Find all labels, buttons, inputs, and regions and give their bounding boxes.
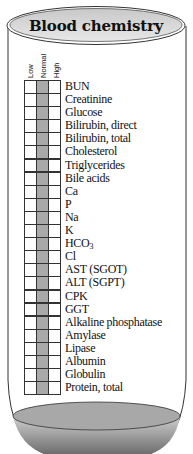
checkbox-low[interactable] [24,159,37,173]
checkbox-high[interactable] [48,276,61,290]
checkbox-low[interactable] [24,93,37,107]
checkbox-high[interactable] [48,237,61,251]
checkbox-low[interactable] [24,329,37,343]
test-row [24,198,63,211]
checkbox-normal[interactable] [36,329,49,343]
checkbox-low[interactable] [24,237,37,251]
checkbox-high[interactable] [48,106,61,120]
checkbox-high[interactable] [48,303,61,317]
test-labels: BUNCreatinineGlucoseBilirubin, directBil… [65,80,162,394]
result-grid [24,80,63,394]
checkbox-high[interactable] [48,224,61,238]
checkbox-high[interactable] [48,250,61,264]
checkbox-normal[interactable] [36,237,49,251]
checkbox-high[interactable] [48,93,61,107]
test-row [24,159,63,172]
checkbox-low[interactable] [24,342,37,356]
checkbox-normal[interactable] [36,185,49,199]
checkbox-low[interactable] [24,132,37,146]
checkbox-high[interactable] [48,80,61,94]
checkbox-high[interactable] [48,172,61,186]
checkbox-high[interactable] [48,355,61,369]
checkbox-high[interactable] [48,329,61,343]
checkbox-low[interactable] [24,106,37,120]
checkbox-high[interactable] [48,342,61,356]
checkbox-high[interactable] [48,145,61,159]
checkbox-high[interactable] [48,159,61,173]
test-name: Amylase [65,328,106,342]
checkbox-normal[interactable] [36,106,49,120]
checkbox-low[interactable] [24,276,37,290]
checkbox-normal[interactable] [36,342,49,356]
checkbox-high[interactable] [48,211,61,225]
test-label: P [65,198,162,211]
test-name: Triglycerides [65,158,125,172]
checkbox-low[interactable] [24,145,37,159]
checkbox-high[interactable] [48,368,61,382]
test-label: HCO3 [65,237,162,250]
test-row [24,237,63,250]
checkbox-low[interactable] [24,381,37,395]
checkbox-low[interactable] [24,263,37,277]
checkbox-high[interactable] [48,381,61,395]
test-name: Albumin [65,354,106,368]
checkbox-normal[interactable] [36,381,49,395]
checkbox-high[interactable] [48,290,61,304]
checkbox-high[interactable] [48,132,61,146]
column-header-high: High [50,48,63,78]
checkbox-low[interactable] [24,224,37,238]
checkbox-low[interactable] [24,80,37,94]
checkbox-low[interactable] [24,303,37,317]
checkbox-normal[interactable] [36,172,49,186]
checkbox-low[interactable] [24,211,37,225]
checkbox-low[interactable] [24,198,37,212]
checkbox-low[interactable] [24,172,37,186]
test-row [24,342,63,355]
checkbox-normal[interactable] [36,303,49,317]
column-headers: Low Normal High [24,48,63,80]
checkbox-normal[interactable] [36,159,49,173]
checkbox-normal[interactable] [36,93,49,107]
test-name: Cholesterol [65,144,117,158]
checkbox-normal[interactable] [36,198,49,212]
checkbox-normal[interactable] [36,145,49,159]
test-name: Creatinine [65,92,112,106]
checkbox-high[interactable] [48,119,61,133]
checkbox-normal[interactable] [36,250,49,264]
checkbox-high[interactable] [48,263,61,277]
checkbox-normal[interactable] [36,276,49,290]
checkbox-normal[interactable] [36,80,49,94]
checkbox-normal[interactable] [36,119,49,133]
test-name: Cl [65,249,76,263]
checkbox-low[interactable] [24,355,37,369]
test-row [24,250,63,263]
checkbox-high[interactable] [48,198,61,212]
checkbox-high[interactable] [48,185,61,199]
checkbox-normal[interactable] [36,355,49,369]
test-label: Protein, total [65,381,162,394]
checkbox-low[interactable] [24,290,37,304]
checkbox-low[interactable] [24,250,37,264]
checkbox-normal[interactable] [36,368,49,382]
test-row [24,368,63,381]
test-name: HCO [65,236,89,250]
checkbox-normal[interactable] [36,263,49,277]
checkbox-normal[interactable] [36,224,49,238]
checkbox-normal[interactable] [36,132,49,146]
test-row [24,145,63,158]
checkbox-low[interactable] [24,368,37,382]
checkbox-low[interactable] [24,119,37,133]
checkbox-low[interactable] [24,185,37,199]
test-name: BUN [65,79,89,93]
test-label: Bile acids [65,172,162,185]
checkbox-low[interactable] [24,316,37,330]
checkbox-normal[interactable] [36,290,49,304]
test-name: Globulin [65,367,105,381]
test-name: CPK [65,289,87,303]
test-row [24,185,63,198]
checkbox-normal[interactable] [36,316,49,330]
checkbox-normal[interactable] [36,211,49,225]
diagram-title: Blood chemistry [7,7,185,44]
checkbox-high[interactable] [48,316,61,330]
test-name: Na [65,210,78,224]
